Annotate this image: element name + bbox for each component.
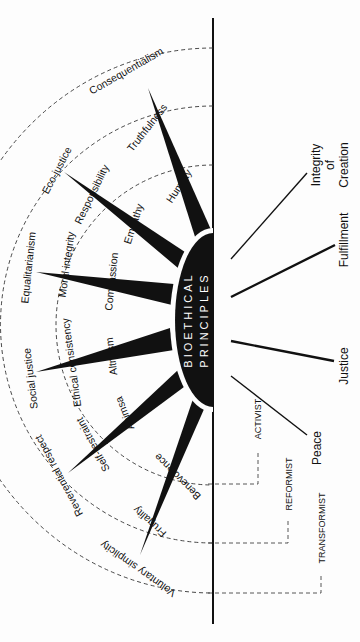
- outcome-labels: Integrity of Creation Fulfillment Justic…: [309, 142, 351, 465]
- level-labels: ACTIVIST REFORMIST TRANSFORMIST: [253, 398, 327, 563]
- outcome-lines: [231, 173, 335, 435]
- outcome-justice: Justice: [337, 347, 351, 385]
- line-fulfillment: [231, 245, 335, 297]
- level-label-reformist: REFORMIST: [284, 457, 294, 511]
- line-peace: [231, 376, 307, 435]
- leader-transformist: [208, 573, 321, 593]
- line-justice: [231, 341, 334, 361]
- label-empathy: Empathy: [121, 201, 145, 245]
- label-equalitarianism: Equalitarianism: [18, 231, 37, 304]
- center-label-line2: PRINCIPLES: [198, 272, 210, 367]
- leader-reformist: [208, 520, 288, 543]
- label-altruism: Altruism: [103, 337, 120, 376]
- label-voluntary-simplicity: Voluntary simplicity: [97, 538, 178, 599]
- level-label-transformist: TRANSFORMIST: [317, 492, 327, 564]
- label-consequentialism: Consequentialism: [87, 44, 165, 96]
- outcome-integrity-line1: Integrity: [309, 144, 323, 187]
- label-eco-justice: Eco-justice: [39, 144, 74, 195]
- line-integrity-of-creation: [231, 173, 307, 259]
- center-label-line1: BIOETHICAL: [182, 272, 194, 367]
- leader-activist: [208, 452, 258, 484]
- outcome-fulfillment: Fulfillment: [337, 212, 351, 267]
- label-reverential-respect: Reverential respect: [32, 433, 85, 519]
- middle-ring-labels: Truthfulness Responsibility Moral integr…: [56, 101, 170, 540]
- outcome-integrity-line2: of: [323, 159, 337, 170]
- outcome-peace: Peace: [310, 431, 324, 465]
- label-social-justice: Social justice: [20, 347, 39, 409]
- label-moral-integrity: Moral integrity: [56, 230, 77, 298]
- label-frugality: Frugality: [130, 504, 169, 540]
- label-responsibility: Responsibility: [72, 162, 112, 226]
- bioethical-principles-diagram: BIOETHICAL PRINCIPLES Humility Empathy C…: [0, 0, 360, 642]
- level-leaders: [208, 452, 321, 593]
- outcome-integrity-line3: Creation: [337, 142, 351, 187]
- level-label-activist: ACTIVIST: [253, 398, 263, 439]
